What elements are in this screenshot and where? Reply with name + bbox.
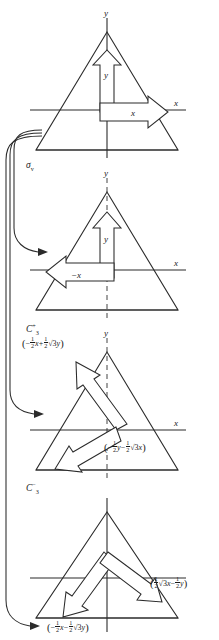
- radical: √3: [159, 579, 167, 588]
- y-axis-label: y: [103, 168, 108, 178]
- c3-subscript: 3: [36, 488, 39, 495]
- sign: −: [26, 339, 31, 348]
- fraction-one-half: 12: [154, 576, 158, 590]
- connector-to-c3-plus: [10, 133, 42, 414]
- x-axis-label: x: [173, 98, 178, 108]
- sigma-subscript: v: [31, 165, 34, 172]
- radical: √3: [48, 339, 56, 348]
- operation-label-c3-minus: C−3: [26, 481, 39, 495]
- c3-plus-y-transform: (−12y−12√3x): [104, 440, 146, 454]
- sign: −: [171, 579, 176, 588]
- connector-to-c3-minus: [6, 136, 42, 626]
- c3-minus-x-transform: (12√3x−12y): [150, 576, 187, 590]
- operation-label-sigma-v: σv: [26, 160, 34, 172]
- c3-plus-x-transform: (−12x+12√3y): [22, 336, 64, 350]
- x-axis-label: x: [173, 258, 178, 268]
- y-axis-label: y: [103, 328, 108, 338]
- panel-reference: y x y x: [30, 8, 186, 158]
- panel-c3-plus: y x: [30, 328, 186, 478]
- y-vector-label: y: [103, 234, 108, 244]
- c3-minus-superscript: −: [32, 481, 36, 488]
- connector-to-sigma-v: [14, 130, 42, 252]
- c3-subscript: 3: [36, 329, 39, 336]
- connector-to-c3-plus-arrowhead: [34, 410, 44, 418]
- x-vector-label: x: [130, 108, 135, 118]
- c3-minus-y-transform: (−12x−12√3y): [47, 620, 89, 634]
- panel-sigma-v: y x y −x: [30, 168, 186, 318]
- figure-canvas: y x y x y x y −x: [0, 0, 219, 640]
- sign: −: [121, 443, 126, 452]
- sign: −: [64, 623, 69, 632]
- negative-x-vector-label: −x: [71, 270, 81, 280]
- connector-to-sigma-v-arrowhead: [38, 248, 48, 256]
- sign: −: [51, 623, 56, 632]
- panel-c3-minus: [30, 498, 186, 632]
- y-axis-label: y: [103, 8, 108, 18]
- y-vector-label: y: [103, 70, 108, 80]
- radical: √3: [73, 623, 81, 632]
- c3-plus-superscript: +: [32, 322, 36, 329]
- sign: +: [39, 339, 44, 348]
- radical: √3: [130, 443, 138, 452]
- x-axis-label: x: [173, 418, 178, 428]
- symmetry-operations-figure: y x y x y x y −x: [0, 0, 219, 640]
- sign: −: [108, 443, 113, 452]
- operation-label-c3-plus: C+3: [26, 322, 39, 336]
- connector-to-c3-minus-arrowhead: [30, 622, 40, 630]
- connector-group: [6, 130, 48, 630]
